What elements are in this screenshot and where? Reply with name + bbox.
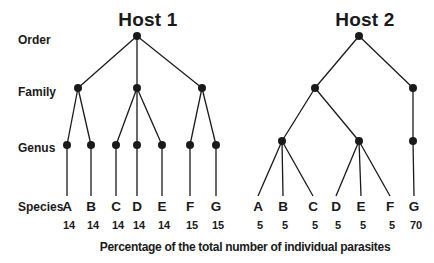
species-label: F: [386, 199, 394, 214]
species-label: A: [62, 199, 72, 214]
species-value: 70: [410, 219, 422, 231]
genus-node: [133, 141, 141, 149]
species-label: E: [356, 199, 365, 214]
species-label: C: [308, 199, 318, 214]
species-label: D: [331, 199, 341, 214]
tree-edge: [202, 88, 216, 145]
tree-edge: [78, 88, 91, 145]
tree-edge: [190, 88, 202, 145]
species-label: D: [132, 199, 142, 214]
species-label: F: [186, 199, 194, 214]
genus-node: [212, 141, 220, 149]
tree-edge: [359, 141, 361, 196]
level-label-genus: Genus: [18, 141, 55, 155]
tree-edge: [315, 88, 359, 141]
species-label: B: [278, 199, 288, 214]
species-label: G: [211, 199, 222, 214]
tree-edge: [67, 88, 78, 145]
tree-edge: [336, 141, 359, 196]
tree-edge: [359, 141, 390, 196]
order-node: [133, 32, 141, 40]
tree-edge: [258, 141, 282, 196]
species-value: 5: [282, 219, 288, 231]
species-value: 5: [312, 219, 318, 231]
order-node: [355, 32, 363, 40]
family-node: [409, 84, 417, 92]
tree-edge: [359, 36, 413, 88]
species-value: 14: [63, 219, 75, 231]
genus-node: [158, 141, 166, 149]
species-label: A: [253, 199, 263, 214]
species-label: E: [157, 199, 166, 214]
genus-node: [63, 141, 71, 149]
level-label-species: Species: [18, 200, 63, 214]
level-label-order: Order: [18, 33, 51, 47]
axis-caption: Percentage of the total number of indivi…: [56, 240, 434, 254]
species-value: 14: [133, 219, 145, 231]
genus-node: [112, 141, 120, 149]
species-value: 5: [257, 219, 263, 231]
genus-node: [278, 137, 286, 145]
level-label-family: Family: [18, 85, 56, 99]
tree-edge: [413, 141, 414, 196]
species-value: 15: [186, 219, 198, 231]
species-label: G: [409, 199, 420, 214]
species-label: C: [111, 199, 121, 214]
tree-edge: [282, 141, 313, 196]
tree-edge: [116, 88, 137, 145]
genus-node: [186, 141, 194, 149]
tree-edge: [78, 36, 137, 88]
tree-edge: [315, 36, 359, 88]
tree-edge: [282, 141, 283, 196]
species-value: 5: [335, 219, 341, 231]
genus-node: [409, 137, 417, 145]
species-label: B: [86, 199, 96, 214]
host1-title: Host 1: [118, 9, 177, 31]
taxonomy-diagram: Host 1 Host 2 OrderFamilyGenusSpecies A1…: [0, 0, 434, 263]
tree-edge: [282, 88, 315, 141]
family-node: [74, 84, 82, 92]
genus-node: [355, 137, 363, 145]
tree-edge: [137, 88, 162, 145]
family-node: [198, 84, 206, 92]
species-value: 14: [87, 219, 99, 231]
family-node: [311, 84, 319, 92]
family-node: [133, 84, 141, 92]
species-value: 14: [158, 219, 170, 231]
species-value: 5: [360, 219, 366, 231]
tree-edge: [137, 36, 202, 88]
host2-title: Host 2: [335, 9, 394, 31]
species-value: 15: [212, 219, 224, 231]
species-value: 5: [389, 219, 395, 231]
species-value: 14: [112, 219, 124, 231]
genus-node: [87, 141, 95, 149]
